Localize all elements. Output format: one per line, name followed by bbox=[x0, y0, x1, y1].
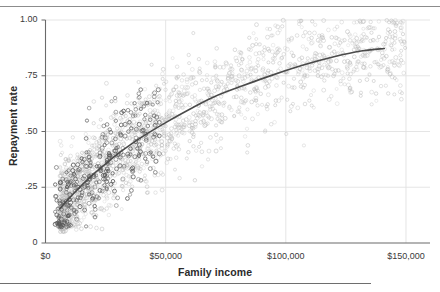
x-tick-label-1: $50,000 bbox=[126, 251, 206, 261]
scatter-points-main-cloud bbox=[58, 18, 407, 233]
x-tick-label-3: $150,000 bbox=[366, 251, 440, 261]
y-axis-title: Repayment rate bbox=[7, 61, 19, 191]
y-tick-label-0: 0 bbox=[6, 237, 38, 247]
scatter-plot bbox=[0, 0, 440, 292]
x-tick-label-0: $0 bbox=[6, 251, 86, 261]
tick-marks bbox=[42, 20, 46, 243]
x-tick-label-2: $100,000 bbox=[246, 251, 326, 261]
x-axis-title: Family income bbox=[0, 266, 430, 278]
plot-canvas bbox=[0, 0, 440, 292]
y-tick-label-4: 1.00 bbox=[6, 14, 38, 24]
figure-container: 0.25.50.751.00 $0$50,000$100,000$150,000… bbox=[0, 0, 440, 292]
